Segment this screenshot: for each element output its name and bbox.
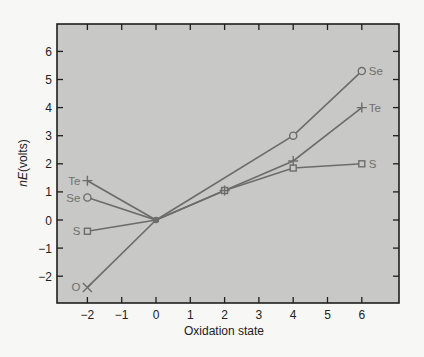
y-axis-title: nE(volts): [16, 139, 30, 186]
series-label-S: S: [369, 158, 377, 170]
y-tick-label: 1: [45, 185, 52, 199]
y-tick-label: 0: [45, 214, 52, 228]
y-tick-label: 6: [45, 45, 52, 59]
series-label-Se: Se: [369, 65, 383, 77]
plot-area: [57, 24, 399, 303]
x-tick-label: 5: [324, 308, 331, 322]
marker-square: [359, 161, 365, 167]
x-tick-label: −2: [81, 308, 95, 322]
marker-circle: [358, 67, 365, 74]
origin-marker: [153, 217, 159, 223]
y-tick-label: 4: [45, 101, 52, 115]
chart: TeSeSOSeTeS −2−10123456−2−10123456 Oxida…: [0, 0, 424, 357]
y-tick-label: −1: [38, 242, 52, 256]
x-tick-label: 2: [221, 308, 228, 322]
marker-circle: [290, 132, 297, 139]
y-tick-label: −2: [38, 270, 52, 284]
series-label-Se: Se: [66, 192, 80, 204]
x-tick-label: 1: [187, 308, 194, 322]
y-axis-title-unit: (volts): [16, 139, 30, 172]
y-tick-label: 3: [45, 129, 52, 143]
x-tick-label: 6: [358, 308, 365, 322]
series-label-S: S: [73, 225, 81, 237]
x-tick-label: −1: [115, 308, 129, 322]
marker-square: [84, 228, 90, 234]
y-axis-title-italic: nE: [16, 171, 30, 187]
series-label-Te: Te: [369, 102, 381, 114]
x-tick-label: 3: [256, 308, 263, 322]
marker-circle: [84, 194, 91, 201]
x-tick-label: 4: [290, 308, 297, 322]
series-label-O: O: [71, 281, 80, 293]
y-tick-label: 5: [45, 73, 52, 87]
x-tick-label: 0: [153, 308, 160, 322]
x-axis-title: Oxidation state: [184, 324, 264, 338]
series-label-Te: Te: [68, 175, 80, 187]
y-tick-label: 2: [45, 157, 52, 171]
